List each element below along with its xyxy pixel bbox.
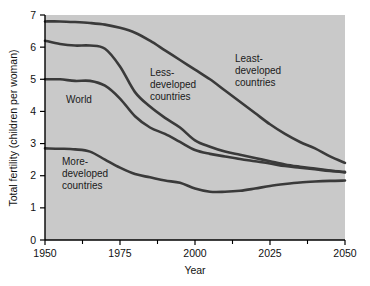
y-tick-label-2: 2: [30, 169, 36, 181]
annotation-less-line1: Less-: [150, 67, 174, 78]
y-axis-title: Total fertility (children per woman): [7, 50, 19, 207]
y-tick-label-1: 1: [30, 201, 36, 213]
annotation-more-line3: countries: [62, 180, 103, 191]
annotation-least-line2: developed: [235, 65, 281, 76]
x-axis-title: Year: [184, 264, 206, 276]
x-tick-label-1975: 1975: [108, 247, 132, 259]
annotation-world: World: [66, 94, 92, 105]
annotation-least-line1: Least-: [235, 53, 263, 64]
annotation-more-line1: More-: [62, 156, 88, 167]
annotation-less-line2: developed: [150, 79, 196, 90]
fertility-line-chart: 01234567 19501975200020252050 Total fert…: [0, 0, 370, 286]
y-tick-label-5: 5: [30, 73, 36, 85]
annotation-world-line1: World: [66, 94, 92, 105]
y-tick-label-6: 6: [30, 41, 36, 53]
annotation-more-line2: developed: [62, 168, 108, 179]
x-tick-label-2000: 2000: [183, 247, 207, 259]
x-tick-label-1950: 1950: [33, 247, 57, 259]
y-tick-label-4: 4: [30, 105, 36, 117]
chart-canvas: 01234567 19501975200020252050 Total fert…: [0, 0, 370, 286]
x-tick-label-2050: 2050: [333, 247, 357, 259]
y-tick-label-3: 3: [30, 137, 36, 149]
y-tick-label-0: 0: [30, 234, 36, 246]
plot-area-background: [45, 15, 345, 240]
annotation-less-line3: countries: [150, 91, 191, 102]
x-tick-label-2025: 2025: [258, 247, 282, 259]
y-tick-label-7: 7: [30, 9, 36, 21]
annotation-least-line3: countries: [235, 77, 276, 88]
